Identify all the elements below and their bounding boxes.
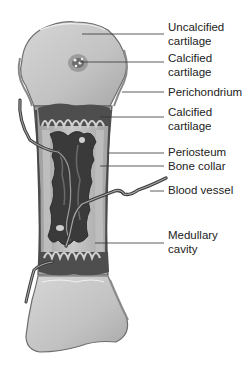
label-calcified-cartilage-shaft: Calcified cartilage [168, 106, 212, 133]
label-line: Periosteum [168, 146, 226, 160]
label-line: Calcified [168, 52, 212, 66]
label-line: Bone collar [168, 160, 226, 174]
calcified-cartilage-center [68, 54, 88, 72]
calcified-cartilage-band-top [38, 103, 110, 126]
label-line: cartilage [168, 120, 212, 134]
label-bone-collar: Bone collar [168, 160, 226, 174]
label-line: Calcified [168, 106, 212, 120]
label-perichondrium: Perichondrium [168, 86, 242, 100]
label-medullary-cavity: Medullary cavity [168, 229, 218, 256]
label-line: Medullary [168, 229, 218, 243]
label-line: cartilage [168, 35, 224, 49]
label-blood-vessel: Blood vessel [168, 184, 233, 198]
label-line: Perichondrium [168, 86, 242, 100]
label-periosteum: Periosteum [168, 146, 226, 160]
lower-epiphysis [26, 276, 128, 352]
label-line: Blood vessel [168, 184, 233, 198]
label-calcified-cartilage-top: Calcified cartilage [168, 52, 212, 79]
label-line: cartilage [168, 66, 212, 80]
label-uncalcified-cartilage: Uncalcified cartilage [168, 21, 224, 48]
label-line: Uncalcified [168, 21, 224, 35]
label-line: cavity [168, 243, 218, 257]
